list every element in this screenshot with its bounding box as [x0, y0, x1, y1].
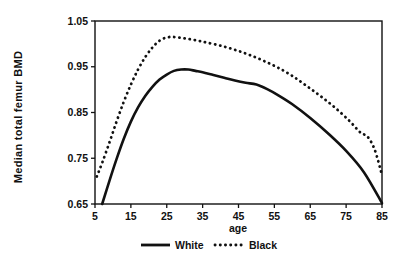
chart-legend: White Black [141, 239, 277, 251]
legend-label-white: White [175, 239, 204, 251]
x-tick-label: 65 [304, 210, 316, 222]
x-tick-label: 35 [197, 210, 209, 222]
x-tick-label: 45 [233, 210, 245, 222]
y-tick-label: 1.05 [68, 15, 89, 27]
x-tick-label: 55 [269, 210, 281, 222]
x-tick-label: 25 [161, 210, 173, 222]
x-axis-tick-labels: 51525354555657585 [92, 210, 388, 222]
y-axis-tick-labels: 0.650.750.850.951.05 [68, 15, 89, 210]
y-tick-label: 0.85 [68, 106, 89, 118]
x-tick-label: 75 [340, 210, 352, 222]
legend-label-black: Black [249, 239, 277, 251]
x-axis-title: age [229, 222, 247, 234]
y-axis-title: Median total femur BMD [12, 51, 24, 184]
data-series-group [97, 37, 382, 204]
y-tick-label: 0.65 [68, 198, 89, 210]
line-chart: 0.650.750.850.951.05 51525354555657585 a… [0, 0, 403, 260]
x-tick-label: 15 [125, 210, 137, 222]
chart-figure: 0.650.750.850.951.05 51525354555657585 a… [0, 0, 403, 260]
y-tick-label: 0.75 [68, 152, 89, 164]
x-tick-label: 85 [376, 210, 388, 222]
plot-frame [95, 21, 382, 204]
x-tick-label: 5 [92, 210, 98, 222]
series-line-white [102, 69, 382, 204]
y-tick-label: 0.95 [68, 60, 89, 72]
